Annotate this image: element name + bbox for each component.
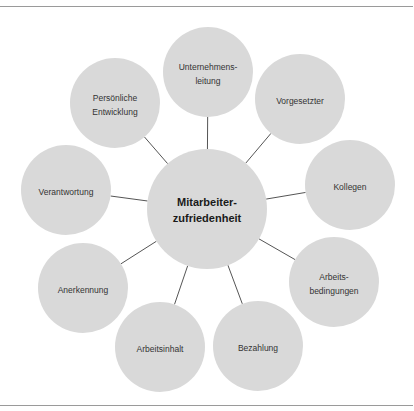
node-persoenliche-entwicklung: PersönlicheEntwicklung [70, 58, 160, 148]
satisfaction-diagram: Unternehmens-leitungVorgesetzterKollegen… [0, 0, 414, 411]
connector-kollegen [266, 192, 305, 199]
node-label: zufriedenheit [173, 212, 242, 224]
node-arbeitsbedingungen: Arbeits-bedingungen [289, 237, 379, 327]
connector-arbeitsbedingungen [259, 239, 295, 260]
node-label: Verantwortung [39, 187, 94, 197]
node-label: Anerkennung [58, 285, 109, 295]
connector-vorgesetzter [246, 133, 271, 163]
connector-persoenliche-entwicklung [144, 137, 167, 164]
node-kollegen: Kollegen [305, 140, 395, 230]
node-label: leitung [195, 76, 220, 86]
node-bezahlung: Bezahlung [213, 301, 303, 391]
node-label: Mitarbeiter- [177, 196, 237, 208]
node-label: Arbeitsinhalt [137, 344, 184, 354]
connector-bezahlung [228, 265, 242, 304]
node-label: Unternehmens- [179, 62, 238, 72]
node-label: Vorgesetzter [276, 96, 324, 106]
node-unternehmensleitung: Unternehmens-leitung [163, 27, 253, 117]
node-arbeitsinhalt: Arbeitsinhalt [115, 302, 205, 392]
node-label: Kollegen [333, 182, 366, 192]
center-node: Mitarbeiter-zufriedenheit [147, 149, 267, 269]
node-vorgesetzter: Vorgesetzter [255, 54, 345, 144]
connector-arbeitsinhalt [175, 266, 188, 305]
connector-anerkennung [121, 241, 156, 264]
node-verantwortung: Verantwortung [21, 145, 111, 235]
node-label: Bezahlung [238, 343, 278, 353]
node-anerkennung: Anerkennung [38, 243, 128, 333]
node-label: Entwicklung [92, 107, 138, 117]
node-label: Arbeits- [319, 272, 348, 282]
node-label: Persönliche [93, 93, 138, 103]
node-label: bedingungen [309, 286, 358, 296]
connector-verantwortung [111, 196, 148, 201]
node-circle [163, 27, 253, 117]
node-circle [289, 237, 379, 327]
node-circle [70, 58, 160, 148]
center-circle [147, 149, 267, 269]
